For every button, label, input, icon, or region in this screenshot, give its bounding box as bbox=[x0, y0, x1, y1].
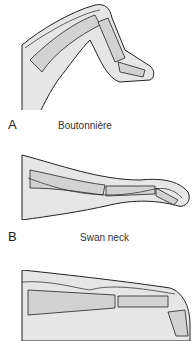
middle-phalanx-b bbox=[106, 186, 155, 196]
panel-b-letter: B bbox=[8, 229, 17, 244]
panel-b bbox=[0, 150, 192, 220]
panel-b-caption: Swan neck bbox=[80, 232, 129, 243]
panel-c bbox=[0, 270, 192, 341]
panel-a bbox=[0, 0, 192, 110]
middle-phalanx-c bbox=[118, 296, 168, 307]
swan-neck-illustration bbox=[0, 150, 192, 220]
panel-a-caption: Boutonnière bbox=[58, 120, 112, 131]
panel-a-letter: A bbox=[8, 117, 17, 132]
finger-c-illustration bbox=[0, 270, 192, 341]
boutonniere-illustration bbox=[0, 0, 192, 110]
